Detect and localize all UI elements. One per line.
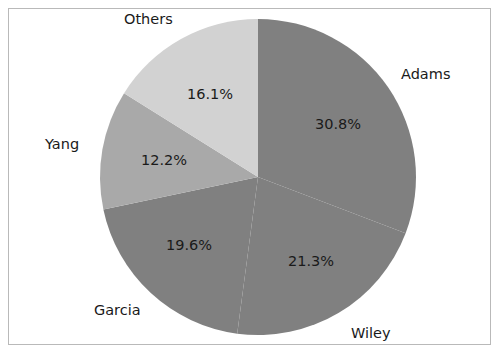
pie-chart-svg <box>0 0 500 354</box>
slice-value-garcia: 19.6% <box>166 238 212 253</box>
slice-value-adams: 30.8% <box>315 117 361 132</box>
slice-value-wiley: 21.3% <box>288 254 334 269</box>
slice-label-adams: Adams <box>401 67 450 82</box>
slice-label-wiley: Wiley <box>351 326 391 341</box>
slice-value-others: 16.1% <box>187 87 233 102</box>
slice-label-yang: Yang <box>45 137 79 152</box>
slice-value-yang: 12.2% <box>141 153 187 168</box>
slice-label-garcia: Garcia <box>94 303 141 318</box>
chart-page: 30.8% 21.3% 19.6% 12.2% 16.1% Adams Wile… <box>0 0 500 354</box>
pie-chart: 30.8% 21.3% 19.6% 12.2% 16.1% Adams Wile… <box>0 0 500 354</box>
slice-label-others: Others <box>124 12 173 27</box>
